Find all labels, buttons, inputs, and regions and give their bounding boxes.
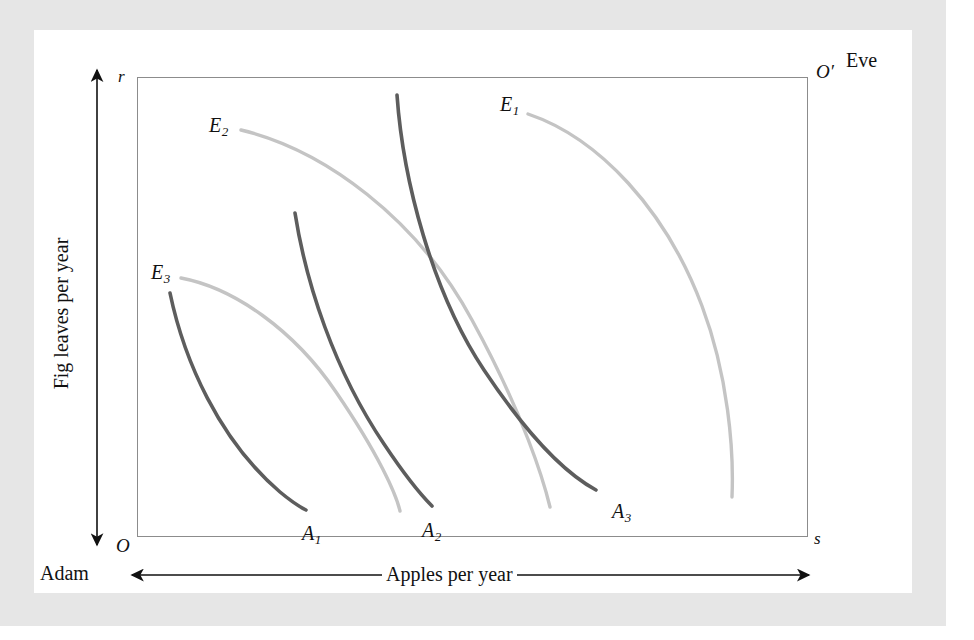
indifference-curve-e3 — [181, 278, 400, 511]
curve-label-a2: A2 — [422, 520, 441, 540]
eve-indifference-curves — [181, 114, 732, 511]
indifference-curve-e2 — [241, 130, 550, 507]
curve-label-e1: E1 — [500, 94, 519, 114]
curve-label-a1: A1 — [302, 523, 321, 543]
curve-label-subscript: 3 — [164, 271, 171, 286]
indifference-curve-a2 — [295, 213, 432, 506]
curve-label-e3: E3 — [151, 262, 170, 282]
curve-label-e2: E2 — [209, 115, 228, 135]
indifference-curves-layer — [34, 30, 912, 593]
person-label-adam: Adam — [40, 563, 89, 583]
indifference-curve-e1 — [528, 114, 732, 497]
curve-label-base: E — [209, 114, 221, 136]
indifference-curve-a3 — [397, 95, 596, 490]
person-label-eve: Eve — [846, 50, 877, 70]
curve-label-subscript: 1 — [513, 103, 520, 118]
y-axis-title: Fig leaves per year — [46, 209, 77, 419]
page-root: Apples per year Fig leaves per year O O′… — [0, 0, 974, 640]
axis-tick-r: r — [118, 68, 125, 85]
curve-label-subscript: 3 — [625, 510, 632, 525]
curve-label-base: E — [151, 261, 163, 283]
curve-label-base: A — [422, 519, 434, 541]
edgeworth-box-figure: Apples per year Fig leaves per year O O′… — [34, 30, 912, 593]
curve-label-a3: A3 — [612, 501, 631, 521]
origin-label-adam: O — [116, 536, 130, 555]
curve-label-base: A — [612, 500, 624, 522]
curve-label-subscript: 2 — [222, 124, 229, 139]
x-axis-title: Apples per year — [382, 563, 517, 586]
axis-tick-s: s — [814, 530, 821, 547]
origin-label-eve: O′ — [816, 62, 834, 81]
indifference-curve-a1 — [170, 293, 306, 510]
curve-label-subscript: 2 — [435, 529, 442, 544]
curve-label-subscript: 1 — [315, 532, 322, 547]
curve-label-base: E — [500, 93, 512, 115]
curve-label-base: A — [302, 522, 314, 544]
